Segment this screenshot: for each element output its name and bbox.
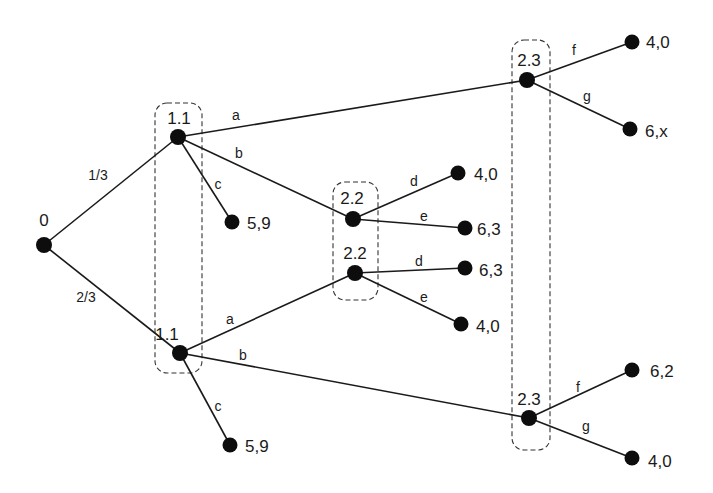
edge-n11b-n23b bbox=[180, 353, 529, 418]
node-label: 2.3 bbox=[517, 390, 541, 409]
action-label: 2/3 bbox=[76, 289, 96, 305]
edge-n23a-l7 bbox=[527, 42, 632, 80]
infoset-2-3-box bbox=[512, 40, 550, 450]
action-label: g bbox=[582, 418, 590, 434]
action-label: b bbox=[239, 347, 247, 363]
decision-nodes: 01.11.12.22.22.32.3 bbox=[36, 51, 541, 426]
game-tree-canvas: 1/32/3abcabcdedefgfg 01.11.12.22.22.32.3… bbox=[0, 0, 713, 493]
decision-node bbox=[521, 410, 537, 426]
decision-node bbox=[345, 211, 361, 227]
action-label: d bbox=[415, 253, 423, 269]
payoff-label: 5,9 bbox=[247, 214, 271, 233]
action-label: e bbox=[420, 208, 428, 224]
edge-n22b-l5 bbox=[355, 268, 465, 273]
node-label: 1.1 bbox=[167, 109, 191, 128]
edge-n23b-l10 bbox=[529, 418, 632, 458]
payoff-label: 6,3 bbox=[477, 220, 501, 239]
terminal-node bbox=[625, 451, 640, 466]
terminal-nodes: 5,95,94,06,36,34,04,06,x6,24,0 bbox=[223, 33, 674, 471]
terminal-node bbox=[623, 122, 638, 137]
payoff-label: 6,x bbox=[645, 122, 668, 141]
edge-n23a-l8 bbox=[527, 80, 630, 129]
game-tree-diagram: 1/32/3abcabcdedefgfg 01.11.12.22.22.32.3… bbox=[0, 0, 713, 493]
payoff-label: 4,0 bbox=[474, 165, 498, 184]
edge-n11a-n23a bbox=[178, 80, 527, 137]
node-label: 0 bbox=[39, 211, 48, 230]
edge-n0-n11a bbox=[44, 137, 178, 245]
action-label: c bbox=[215, 398, 222, 414]
edge-n22a-l4 bbox=[353, 219, 465, 228]
edge-n11b-n22b bbox=[180, 273, 355, 353]
terminal-node bbox=[625, 363, 640, 378]
node-label: 1.1 bbox=[155, 325, 179, 344]
edge-n22a-l3 bbox=[353, 173, 458, 219]
payoff-label: 4,0 bbox=[648, 452, 672, 471]
action-label: e bbox=[420, 289, 428, 305]
action-label: 1/3 bbox=[88, 167, 108, 183]
node-label: 2.3 bbox=[517, 51, 541, 70]
action-label: a bbox=[232, 107, 240, 123]
edge-n11b-l2 bbox=[180, 353, 230, 445]
payoff-label: 5,9 bbox=[245, 437, 269, 456]
payoff-label: 6,3 bbox=[479, 261, 503, 280]
terminal-node bbox=[225, 215, 240, 230]
action-label: c bbox=[215, 176, 222, 192]
action-label: f bbox=[576, 379, 580, 395]
action-label: f bbox=[572, 42, 576, 58]
decision-node bbox=[347, 265, 363, 281]
action-label: d bbox=[410, 173, 418, 189]
payoff-label: 4,0 bbox=[476, 317, 500, 336]
decision-node bbox=[519, 72, 535, 88]
terminal-node bbox=[451, 166, 466, 181]
action-label: b bbox=[235, 145, 243, 161]
terminal-node bbox=[458, 261, 473, 276]
terminal-node bbox=[458, 221, 473, 236]
edges bbox=[44, 42, 632, 458]
payoff-label: 6,2 bbox=[650, 362, 674, 381]
payoff-label: 4,0 bbox=[646, 33, 670, 52]
terminal-node bbox=[454, 317, 469, 332]
action-labels: 1/32/3abcabcdedefgfg bbox=[76, 42, 591, 434]
action-label: g bbox=[583, 88, 591, 104]
decision-node bbox=[170, 129, 186, 145]
decision-node bbox=[172, 345, 188, 361]
edge-n23b-l9 bbox=[529, 370, 632, 418]
terminal-node bbox=[223, 438, 238, 453]
action-label: a bbox=[226, 311, 234, 327]
node-label: 2.2 bbox=[340, 189, 364, 208]
terminal-node bbox=[625, 35, 640, 50]
chance-node bbox=[36, 237, 52, 253]
node-label: 2.2 bbox=[343, 244, 367, 263]
